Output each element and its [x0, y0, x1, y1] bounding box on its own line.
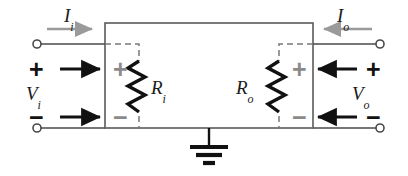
output-current-label: Io — [337, 6, 349, 29]
output-resistor-label-sub: o — [248, 92, 254, 106]
input-voltage-label-base: V — [26, 83, 38, 104]
output-resistor-symbol — [268, 61, 285, 112]
output-voltage-label-base: V — [352, 83, 364, 104]
circuit-diagram-figure: Ii Io Vi Vo Ri Ro + − + − + − + − — [0, 0, 408, 176]
output-inner-minus-sign: − — [292, 105, 307, 130]
input-outer-minus-sign: − — [29, 105, 44, 130]
input-resistor-label: Ri — [151, 78, 166, 101]
input-outer-plus-sign: + — [29, 57, 44, 82]
output-resistor-label-base: R — [236, 77, 248, 98]
input-resistor-label-base: R — [151, 77, 163, 98]
input-inner-minus-sign: − — [113, 105, 128, 130]
output-outer-minus-sign: − — [366, 105, 381, 130]
output-current-label-sub: o — [343, 20, 349, 34]
input-inner-plus-sign: + — [113, 57, 128, 82]
output-resistor-label: Ro — [236, 78, 254, 101]
output-top-terminal — [376, 40, 384, 48]
input-resistor-symbol — [128, 61, 145, 112]
input-top-terminal — [33, 40, 41, 48]
input-current-label: Ii — [64, 6, 74, 29]
input-current-label-sub: i — [70, 20, 73, 34]
input-resistor-label-sub: i — [163, 92, 166, 106]
output-outer-plus-sign: + — [366, 57, 381, 82]
output-inner-plus-sign: + — [292, 57, 307, 82]
